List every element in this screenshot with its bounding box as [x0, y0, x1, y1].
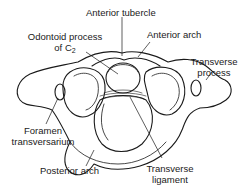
atlas-illustration	[0, 0, 250, 192]
label-odontoid-line2: of C2	[27, 43, 103, 54]
leader-anterior-arch	[138, 42, 150, 57]
label-posterior-arch: Posterior arch	[40, 166, 99, 177]
right-foramen	[191, 80, 201, 96]
label-foramen-line1: Foramen	[10, 126, 76, 137]
label-transverse-process: Transverse process	[188, 57, 240, 78]
leader-posterior-arch	[86, 150, 94, 166]
label-anterior-tubercle: Anterior tubercle	[86, 8, 156, 19]
transverse-ligament-fibres	[100, 90, 146, 99]
leader-foramen	[46, 98, 58, 124]
label-transverse-process-line2: process	[188, 68, 240, 79]
left-facet	[63, 68, 105, 117]
label-transverse-ligament-line1: Transverse	[142, 164, 198, 175]
label-foramen-line2: transversarium	[10, 137, 76, 148]
leader-odontoid	[86, 52, 118, 74]
label-transverse-ligament: Transverse ligament	[142, 164, 198, 185]
label-foramen-transversarium: Foramen transversarium	[10, 126, 76, 147]
label-anterior-arch: Anterior arch	[147, 30, 201, 41]
label-transverse-ligament-line2: ligament	[142, 175, 198, 186]
label-odontoid-process: Odontoid process of C2	[27, 32, 103, 53]
label-transverse-process-line1: Transverse	[188, 57, 240, 68]
